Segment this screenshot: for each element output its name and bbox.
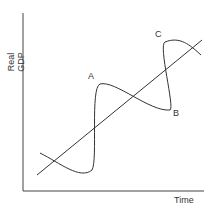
x-axis-label: Time bbox=[174, 195, 194, 205]
y-axis-label: Real GDP bbox=[6, 42, 26, 82]
point-a-label: A bbox=[88, 71, 94, 81]
chart-canvas bbox=[0, 0, 218, 218]
point-c-label: C bbox=[155, 29, 162, 39]
business-cycle-chart: Real GDP Time A B C bbox=[0, 0, 218, 218]
point-b-label: B bbox=[173, 108, 179, 118]
